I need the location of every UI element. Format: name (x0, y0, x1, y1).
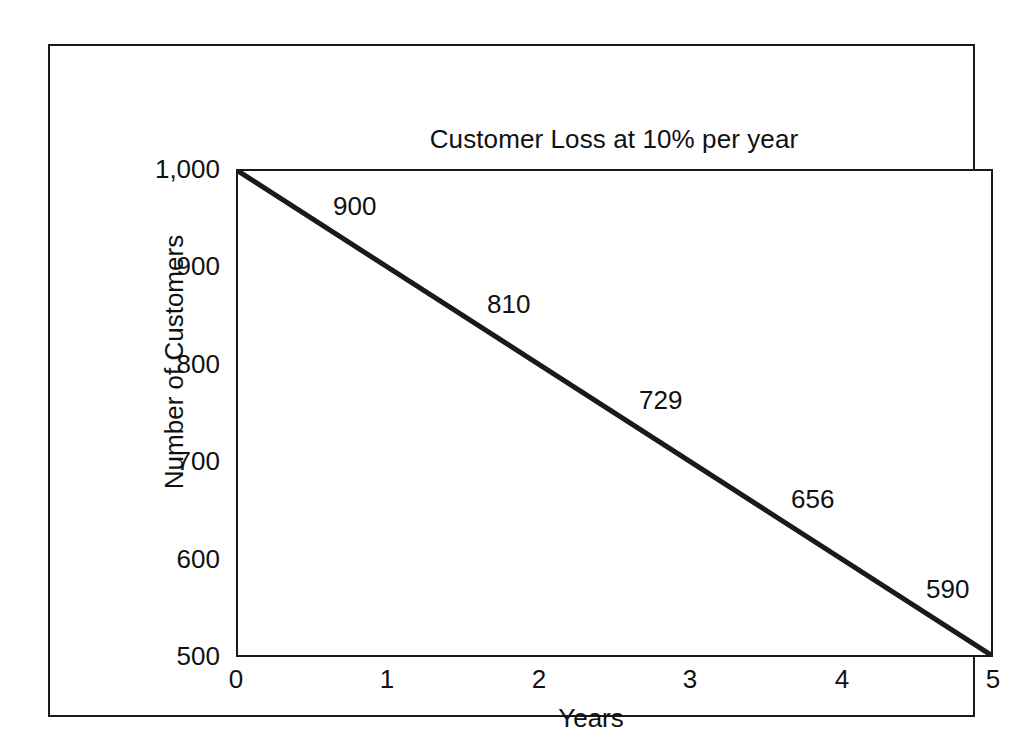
point-label-year-4: 656 (791, 486, 834, 512)
x-tick-label-0: 0 (206, 664, 266, 694)
point-label-year-5: 590 (926, 576, 969, 602)
y-tick-label-500: 500 (100, 643, 220, 669)
x-axis-title: Years (236, 703, 946, 733)
x-axis-tick-labels: 0 1 2 3 4 5 (236, 664, 993, 698)
point-label-year-2: 810 (487, 291, 530, 317)
point-label-year-3: 729 (639, 387, 682, 413)
x-tick-label-1: 1 (357, 664, 417, 694)
point-label-year-1: 900 (333, 193, 376, 219)
y-tick-label-600: 600 (100, 546, 220, 572)
y-tick-label-700: 700 (100, 448, 220, 474)
x-tick-label-5: 5 (963, 664, 1023, 694)
plot-area (236, 169, 993, 657)
x-tick-label-3: 3 (660, 664, 720, 694)
x-tick-label-2: 2 (509, 664, 569, 694)
x-tick-label-4: 4 (812, 664, 872, 694)
plot-svg (238, 171, 991, 655)
y-tick-label-800: 800 (100, 351, 220, 377)
y-tick-label-900: 900 (100, 253, 220, 279)
chart-title: Customer Loss at 10% per year (236, 124, 992, 154)
y-tick-label-1000: 1,000 (100, 156, 220, 182)
data-line-series-1 (238, 171, 991, 655)
y-axis-tick-labels: 1,000 900 800 700 600 500 (90, 169, 220, 657)
figure-frame: Customer Loss at 10% per year Number of … (48, 44, 975, 717)
